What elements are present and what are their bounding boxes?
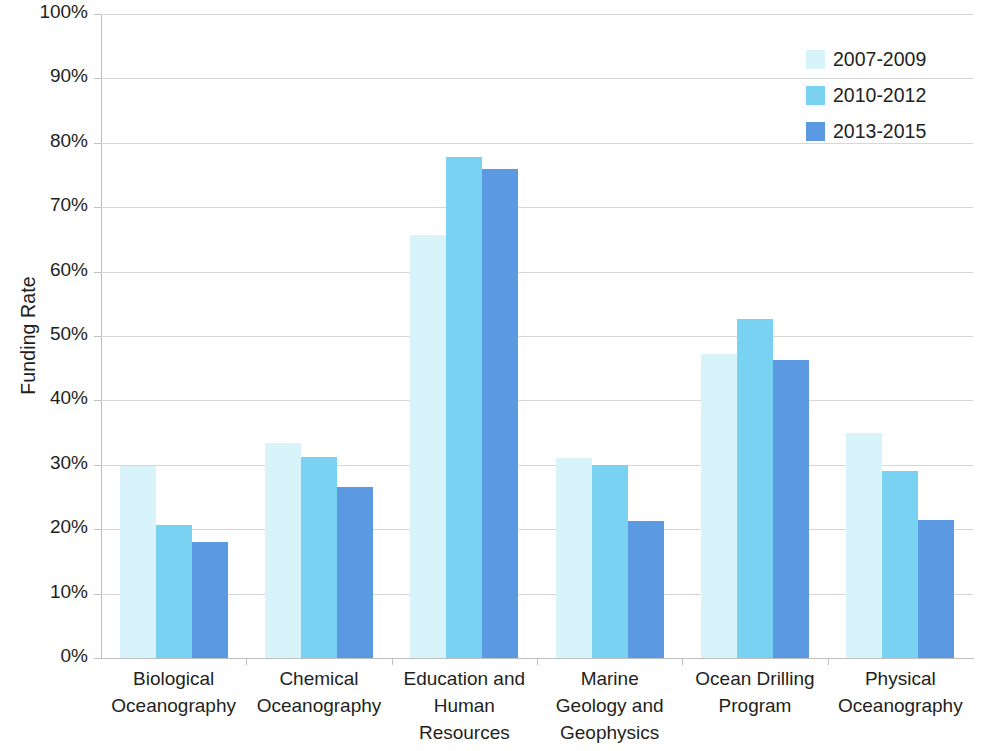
- gridline: [101, 465, 973, 466]
- y-axis-tick-label: 60%: [2, 259, 88, 281]
- category-separator: [392, 658, 393, 665]
- y-axis-tick-label: 20%: [2, 516, 88, 538]
- category-separator: [682, 658, 683, 665]
- x-axis-category-label: Ocean DrillingProgram: [682, 665, 827, 719]
- bar-chart: Funding Rate 0%10%20%30%40%50%60%70%80%9…: [0, 0, 988, 751]
- y-axis-tick: [94, 78, 101, 79]
- legend-label: 2010-2012: [833, 80, 926, 110]
- legend-item: 2013-2015: [806, 116, 986, 146]
- gridline: [101, 594, 973, 595]
- category-label-line: Oceanography: [246, 692, 391, 719]
- y-axis-tick-label: 80%: [2, 130, 88, 152]
- bar: [882, 471, 918, 658]
- gridline: [101, 14, 973, 15]
- bar: [301, 457, 337, 658]
- x-axis-category-label: PhysicalOceanography: [828, 665, 973, 719]
- bar: [773, 360, 809, 658]
- gridline: [101, 400, 973, 401]
- y-axis-tick: [94, 14, 101, 15]
- bar: [156, 525, 192, 658]
- y-axis-tick: [94, 658, 101, 659]
- y-axis-tick: [94, 336, 101, 337]
- legend-label: 2013-2015: [833, 116, 926, 146]
- y-axis-tick-label: 0%: [2, 645, 88, 667]
- bar: [556, 458, 592, 658]
- bar: [701, 354, 737, 658]
- category-separator: [828, 658, 829, 665]
- x-axis-category-label: BiologicalOceanography: [101, 665, 246, 719]
- bar: [592, 465, 628, 658]
- y-axis-tick: [94, 143, 101, 144]
- x-axis-category-label: Education andHumanResources: [392, 665, 537, 746]
- y-axis-tick: [94, 272, 101, 273]
- x-axis-category-label: MarineGeology andGeophysics: [537, 665, 682, 746]
- legend: 2007-20092010-20122013-2015: [806, 44, 986, 152]
- bar: [120, 466, 156, 658]
- category-label-line: Oceanography: [828, 692, 973, 719]
- bar: [265, 443, 301, 658]
- y-axis-tick-label: 10%: [2, 581, 88, 603]
- y-axis-tick-label: 70%: [2, 194, 88, 216]
- category-label-line: Biological: [101, 665, 246, 692]
- y-axis-tick-label: 90%: [2, 65, 88, 87]
- y-axis-tick: [94, 207, 101, 208]
- bar: [446, 157, 482, 658]
- legend-swatch-icon: [806, 86, 825, 105]
- y-axis-tick-label: 100%: [2, 1, 88, 23]
- legend-item: 2007-2009: [806, 44, 986, 74]
- category-separator: [537, 658, 538, 665]
- legend-swatch-icon: [806, 122, 825, 141]
- category-separator: [246, 658, 247, 665]
- category-label-line: Resources: [392, 719, 537, 746]
- category-label-line: Chemical: [246, 665, 391, 692]
- gridline: [101, 207, 973, 208]
- y-axis-tick: [94, 529, 101, 530]
- category-label-line: Oceanography: [101, 692, 246, 719]
- y-axis-tick-label: 40%: [2, 387, 88, 409]
- y-axis-tick-label: 30%: [2, 452, 88, 474]
- category-label-line: Program: [682, 692, 827, 719]
- bar: [918, 520, 954, 658]
- category-label-line: Human: [392, 692, 537, 719]
- bar: [192, 542, 228, 658]
- legend-item: 2010-2012: [806, 80, 986, 110]
- gridline: [101, 272, 973, 273]
- category-label-line: Ocean Drilling: [682, 665, 827, 692]
- y-axis-tick: [94, 594, 101, 595]
- bar: [410, 235, 446, 658]
- legend-swatch-icon: [806, 50, 825, 69]
- y-axis-tick-label: 50%: [2, 323, 88, 345]
- y-axis-tick: [94, 400, 101, 401]
- category-label-line: Geology and: [537, 692, 682, 719]
- bar: [846, 433, 882, 658]
- bar: [337, 487, 373, 658]
- bar: [482, 169, 518, 658]
- category-label-line: Marine: [537, 665, 682, 692]
- y-axis-tick: [94, 465, 101, 466]
- bar: [628, 521, 664, 658]
- bar: [737, 319, 773, 658]
- category-label-line: Geophysics: [537, 719, 682, 746]
- gridline: [101, 529, 973, 530]
- legend-label: 2007-2009: [833, 44, 926, 74]
- category-label-line: Education and: [392, 665, 537, 692]
- category-label-line: Physical: [828, 665, 973, 692]
- gridline: [101, 336, 973, 337]
- x-axis-category-label: ChemicalOceanography: [246, 665, 391, 719]
